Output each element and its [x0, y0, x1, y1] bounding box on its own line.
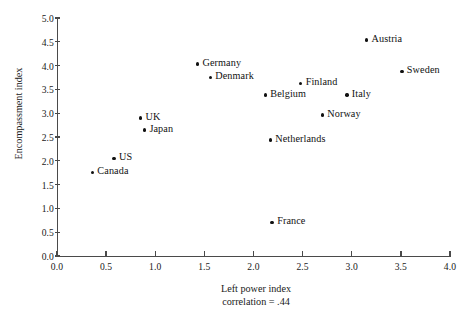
data-point-marker: [299, 82, 302, 85]
x-axis-line: [57, 256, 451, 257]
data-point-marker: [112, 157, 115, 160]
data-point-label: Canada: [97, 165, 128, 176]
y-tick-mark: [55, 89, 60, 90]
data-point-label: Belgium: [270, 88, 306, 99]
data-point-label: UK: [146, 111, 161, 122]
y-tick-mark: [55, 255, 60, 256]
x-tick-mark: [253, 251, 254, 256]
y-tick-mark: [55, 184, 60, 185]
y-tick-label: 3.0: [42, 108, 54, 119]
y-tick-mark: [55, 232, 60, 233]
y-tick-mark: [55, 65, 60, 66]
x-tick-label: 0.0: [51, 261, 63, 272]
y-tick-label: 5.0: [42, 13, 54, 24]
data-point-marker: [365, 38, 368, 41]
x-tick-label: 1.0: [149, 261, 161, 272]
data-point-label: Germany: [202, 57, 241, 68]
data-point-label: Denmark: [215, 70, 254, 81]
x-tick-mark: [449, 251, 450, 256]
data-point-label: Japan: [149, 123, 173, 134]
x-tick-label: 2.5: [296, 261, 308, 272]
y-tick-mark: [55, 136, 60, 137]
x-tick-label: 3.0: [346, 261, 358, 272]
y-tick-label: 0.0: [42, 251, 54, 262]
x-tick-mark: [302, 251, 303, 256]
y-tick-label: 3.5: [42, 84, 54, 95]
x-tick-label: 1.5: [198, 261, 210, 272]
scatter-plot-figure: 0.00.51.01.52.02.53.03.54.0 0.00.51.01.5…: [0, 0, 472, 319]
y-tick-label: 4.0: [42, 60, 54, 71]
x-tick-label: 0.5: [100, 261, 112, 272]
y-tick-label: 2.5: [42, 132, 54, 143]
data-point-marker: [270, 221, 273, 224]
data-point-marker: [345, 93, 348, 96]
y-tick-mark: [55, 160, 60, 161]
x-tick-mark: [400, 251, 401, 256]
data-point-marker: [400, 70, 403, 73]
x-tick-label: 3.5: [395, 261, 407, 272]
x-tick-mark: [351, 251, 352, 256]
data-point-label: Finland: [306, 76, 338, 87]
y-tick-label: 1.5: [42, 179, 54, 190]
x-tick-mark: [155, 251, 156, 256]
y-tick-label: 1.0: [42, 203, 54, 214]
data-point-label: Norway: [327, 108, 360, 119]
x-axis-title: Left power index: [0, 283, 472, 294]
data-point-label: Italy: [352, 88, 371, 99]
x-tick-label: 2.0: [247, 261, 259, 272]
data-point-label: Austria: [371, 33, 402, 44]
data-point-marker: [209, 76, 212, 79]
data-point-marker: [143, 128, 146, 131]
y-tick-mark: [55, 113, 60, 114]
data-point-label: US: [119, 151, 132, 162]
x-tick-label: 4.0: [444, 261, 456, 272]
x-axis-correlation-note: correlation = .44: [0, 296, 472, 307]
data-point-marker: [264, 93, 267, 96]
x-tick-mark: [105, 251, 106, 256]
data-point-marker: [196, 62, 199, 65]
data-point-marker: [269, 138, 272, 141]
y-tick-label: 2.0: [42, 155, 54, 166]
data-point-label: France: [277, 215, 305, 226]
y-tick-mark: [55, 41, 60, 42]
y-tick-mark: [55, 208, 60, 209]
data-point-label: Sweden: [407, 64, 440, 75]
y-tick-mark: [55, 17, 60, 18]
y-tick-label: 4.5: [42, 36, 54, 47]
data-point-marker: [139, 116, 142, 119]
y-tick-label: 0.5: [42, 227, 54, 238]
y-axis-title: Encompassment index: [13, 34, 24, 194]
x-tick-mark: [204, 251, 205, 256]
data-point-marker: [91, 171, 94, 174]
data-point-marker: [321, 113, 324, 116]
data-point-label: Netherlands: [275, 133, 325, 144]
